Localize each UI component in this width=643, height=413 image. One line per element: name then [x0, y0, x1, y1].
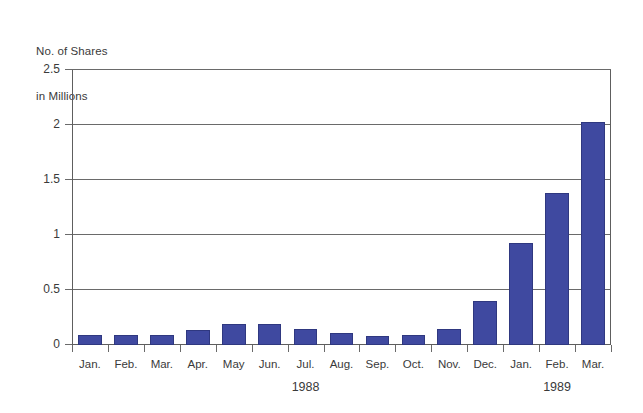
bar: [437, 329, 461, 346]
bar: [294, 329, 318, 346]
x-axis-tick-mark: [431, 345, 432, 352]
x-axis-tick-label: Sep.: [359, 358, 395, 370]
x-axis-tick-label: Apr.: [180, 358, 216, 370]
x-axis-tick-mark: [216, 345, 217, 352]
y-axis-tick-mark: [65, 289, 72, 290]
x-axis-tick-mark: [144, 345, 145, 352]
x-axis-tick-label: Mar.: [144, 358, 180, 370]
y-axis-tick-label: 1: [14, 227, 60, 241]
y-axis-title-line-1: No. of Shares: [36, 44, 108, 59]
x-axis-tick-label: Feb.: [539, 358, 575, 370]
x-axis-tick-label: Jun.: [252, 358, 288, 370]
x-axis-tick-label: Nov.: [431, 358, 467, 370]
x-axis-tick-mark: [72, 345, 73, 352]
x-axis-tick-label: Jul.: [288, 358, 324, 370]
x-axis-tick-label: Jan.: [72, 358, 108, 370]
x-axis-tick-label: Aug.: [324, 358, 360, 370]
x-axis-tick-mark: [539, 345, 540, 352]
bar: [114, 335, 138, 345]
x-axis-tick-mark: [108, 345, 109, 352]
x-axis-tick-mark: [395, 345, 396, 352]
bar: [150, 335, 174, 345]
y-axis-tick-mark: [65, 69, 72, 70]
x-axis-tick-label: Dec.: [467, 358, 503, 370]
bar: [473, 301, 497, 345]
bar: [581, 122, 605, 345]
x-axis-tick-label: Oct.: [395, 358, 431, 370]
x-axis-tick-label: May: [216, 358, 252, 370]
bar: [402, 335, 426, 345]
y-axis-tick-label: 0: [14, 337, 60, 351]
x-axis-group-label: 1988: [270, 380, 342, 394]
x-axis-tick-mark: [467, 345, 468, 352]
x-axis-tick-mark: [611, 345, 612, 352]
x-axis-tick-mark: [180, 345, 181, 352]
y-axis-tick-mark: [65, 234, 72, 235]
y-axis-tick-label: 1.5: [14, 172, 60, 186]
x-axis-tick-mark: [575, 345, 576, 352]
x-axis-tick-mark: [288, 345, 289, 352]
bar: [258, 324, 282, 345]
x-axis-tick-mark: [503, 345, 504, 352]
bar: [509, 243, 533, 345]
bar-chart: No. of Shares in Millions 00.511.522.5 J…: [0, 0, 643, 413]
x-axis-tick-mark: [324, 345, 325, 352]
bar: [330, 333, 354, 345]
x-axis-tick-label: Mar.: [575, 358, 611, 370]
x-axis-tick-mark: [359, 345, 360, 352]
bar: [545, 193, 569, 345]
x-axis-group-label: 1989: [521, 380, 593, 394]
bar: [222, 324, 246, 345]
y-axis-tick-label: 2.5: [14, 62, 60, 76]
x-axis-tick-mark: [252, 345, 253, 352]
y-axis-tick-mark: [65, 344, 72, 345]
x-axis-tick-label: Jan.: [503, 358, 539, 370]
y-axis-tick-label: 0.5: [14, 282, 60, 296]
y-axis-tick-label: 2: [14, 117, 60, 131]
bars-layer: [72, 70, 611, 345]
y-axis-tick-mark: [65, 179, 72, 180]
bar: [78, 335, 102, 345]
bar: [186, 330, 210, 345]
x-axis-tick-label: Feb.: [108, 358, 144, 370]
y-axis-tick-mark: [65, 124, 72, 125]
bar: [366, 336, 390, 345]
